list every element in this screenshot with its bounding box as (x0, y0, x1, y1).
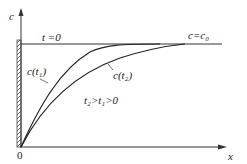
leader-line-t1 (40, 79, 48, 83)
boundary-concentration-label: c=c₀ (188, 30, 209, 41)
time-condition-label: t₂>t₁>0 (84, 95, 118, 106)
initial-time-label: t =0 (42, 32, 61, 43)
diffusion-diagram (0, 0, 247, 164)
curve-t2-label: c(t₂) (113, 70, 132, 81)
origin-label: 0 (17, 150, 23, 161)
y-axis-label: c (9, 11, 14, 22)
x-axis-arrow-icon (218, 145, 227, 150)
x-axis-label: x (228, 151, 233, 162)
curve-t1-label: c(t₁) (27, 66, 46, 77)
wall-hatch (17, 40, 21, 147)
y-axis-arrow-icon (19, 8, 24, 16)
